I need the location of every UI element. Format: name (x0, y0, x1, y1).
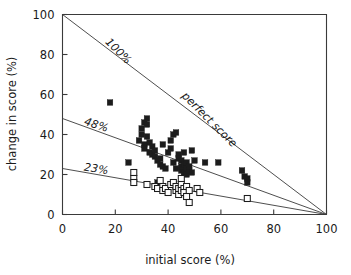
data-point-filled (192, 158, 198, 164)
x-tick-label: 20 (108, 222, 123, 236)
y-axis-title: change in score (%) (5, 57, 19, 172)
y-tick-label: 40 (40, 128, 55, 142)
y-tick-label: 0 (47, 208, 54, 222)
data-point-filled (202, 160, 208, 166)
data-point-open (144, 182, 150, 188)
data-point-filled (173, 130, 179, 136)
data-point-filled (139, 126, 145, 132)
x-tick-labels-group: 020406080100 (59, 222, 338, 236)
data-point-filled (181, 150, 187, 156)
data-point-filled (160, 142, 166, 148)
data-point-filled (173, 166, 179, 172)
data-point-filled (186, 164, 192, 170)
data-point-filled (142, 146, 148, 152)
annotation-23pct: 23% (83, 161, 109, 178)
data-point-filled (168, 146, 174, 152)
data-points-group (107, 100, 250, 206)
data-point-filled (189, 148, 195, 154)
data-point-open (184, 194, 190, 200)
data-point-open (131, 180, 137, 186)
data-point-filled (163, 166, 169, 172)
annotation-48pct: 48% (83, 115, 110, 135)
scatter-plot-figure: 020406080100 020406080100 100%perfect sc… (0, 0, 351, 275)
data-point-filled (157, 156, 163, 162)
x-axis-title: initial score (%) (145, 253, 235, 267)
data-point-open (244, 196, 250, 202)
annotation-100pct: 100% (103, 35, 134, 66)
data-point-filled (152, 148, 158, 154)
data-point-open (157, 178, 163, 184)
data-point-open (197, 190, 203, 196)
data-point-filled (239, 168, 245, 174)
data-point-filled (245, 180, 251, 186)
x-tick-label: 40 (161, 222, 176, 236)
data-point-filled (144, 116, 150, 122)
y-tick-label: 100 (33, 8, 55, 22)
data-point-filled (144, 134, 150, 140)
y-tick-label: 20 (40, 168, 55, 182)
data-point-filled (144, 122, 150, 128)
data-point-filled (215, 160, 221, 166)
data-point-filled (168, 138, 174, 144)
data-point-filled (126, 160, 132, 166)
data-point-open (131, 170, 137, 176)
data-point-open (178, 176, 184, 182)
y-tick-label: 80 (40, 48, 55, 62)
data-point-open (165, 190, 171, 196)
x-tick-label: 80 (266, 222, 281, 236)
y-tick-label: 60 (40, 88, 55, 102)
reference-lines-group (63, 15, 327, 215)
reference-line-100pct (63, 15, 327, 215)
y-tick-labels-group: 020406080100 (33, 8, 55, 222)
data-point-filled (139, 132, 145, 138)
chart-canvas: 020406080100 020406080100 100%perfect sc… (0, 0, 351, 275)
x-tick-label: 60 (214, 222, 229, 236)
data-point-filled (136, 138, 142, 144)
x-tick-label: 0 (59, 222, 66, 236)
data-point-filled (171, 160, 177, 166)
x-tick-label: 100 (316, 222, 338, 236)
data-point-filled (189, 170, 195, 176)
data-point-open (186, 188, 192, 194)
data-point-open (186, 200, 192, 206)
annotation-perfect-score: perfect score (178, 89, 239, 150)
data-point-filled (107, 100, 113, 106)
